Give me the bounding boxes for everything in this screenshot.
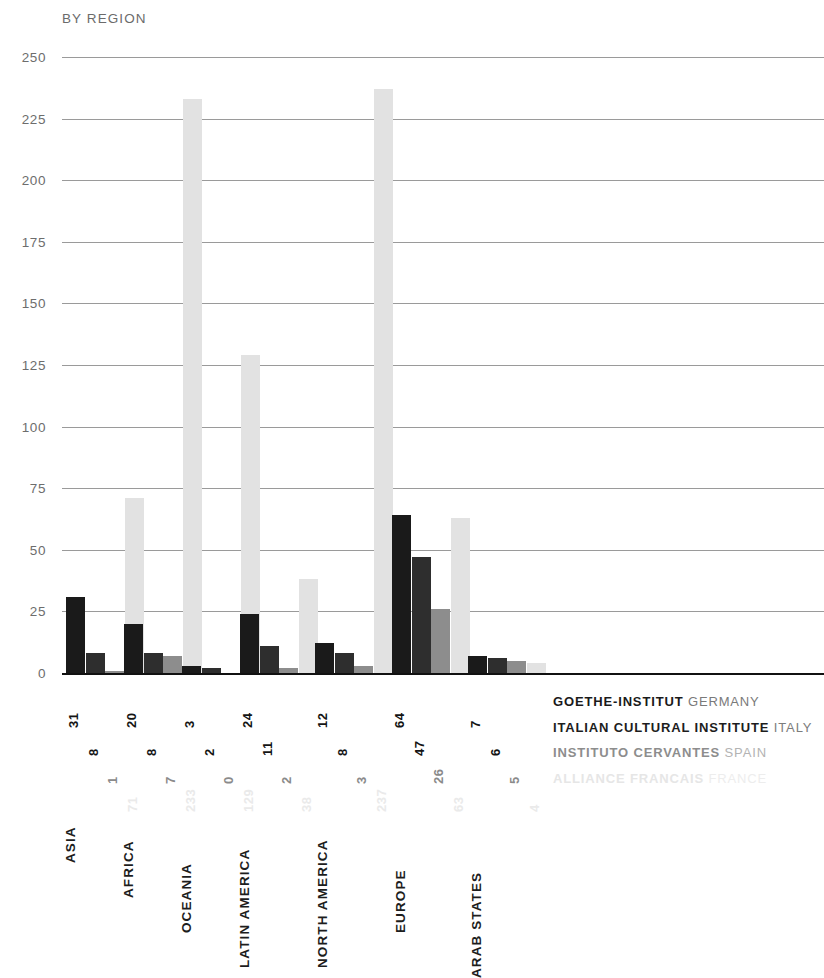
bar: [412, 557, 431, 673]
bar: [335, 653, 354, 673]
bar: [124, 624, 143, 673]
bar-value-label: 7: [468, 720, 483, 728]
bar: [163, 656, 182, 673]
y-axis-tick-125: 125: [0, 358, 46, 373]
bar: [182, 666, 201, 673]
bar-value-label: 2: [202, 748, 217, 756]
bar-value-label: 64: [392, 713, 407, 728]
bar: [431, 609, 450, 673]
category-label-asia: ASIA: [63, 826, 78, 863]
bar-value-label: 24: [240, 713, 255, 728]
bar: [183, 99, 202, 673]
legend-country: FRANCE: [704, 771, 767, 786]
y-axis-tick-200: 200: [0, 173, 46, 188]
bar-value-label: 5: [507, 776, 522, 784]
legend-country: ITALY: [769, 720, 812, 735]
bar-value-label: 47: [412, 741, 427, 756]
y-axis-tick-175: 175: [0, 234, 46, 249]
bars-layer: [62, 57, 824, 673]
bar-value-label: 11: [260, 741, 275, 756]
category-label-oceania: OCEANIA: [179, 863, 194, 933]
bar-value-label: 6: [488, 748, 503, 756]
bar-value-label: 12: [315, 713, 330, 728]
y-axis-tick-0: 0: [0, 666, 46, 681]
category-labels-layer: ASIAAFRICAOCEANIALATIN AMERICANORTH AMER…: [62, 808, 824, 978]
bar: [354, 666, 373, 673]
bar: [315, 643, 334, 673]
bar-value-label: 3: [182, 720, 197, 728]
bar: [66, 597, 85, 673]
bar-value-label: 26: [431, 769, 446, 784]
y-axis-tick-225: 225: [0, 111, 46, 126]
category-label-north-america: NORTH AMERICA: [315, 839, 330, 968]
legend-country: SPAIN: [720, 745, 767, 760]
bar-value-label: 3: [354, 776, 369, 784]
bar: [468, 656, 487, 673]
bar: [451, 518, 470, 673]
legend-item: GOETHE-INSTITUT GERMANY: [553, 689, 824, 715]
bar-value-label: 7: [163, 776, 178, 784]
legend-item: ITALIAN CULTURAL INSTITUTE ITALY: [553, 715, 824, 741]
category-label-arab-states: ARAB STATES: [469, 872, 484, 978]
bar: [488, 658, 507, 673]
bar: [240, 614, 259, 673]
y-axis-tick-75: 75: [0, 481, 46, 496]
bar: [507, 661, 526, 673]
bar: [392, 515, 411, 673]
legend-country: GERMANY: [683, 694, 759, 709]
legend: GOETHE-INSTITUT GERMANYITALIAN CULTURAL …: [553, 689, 824, 791]
legend-organization: ALLIANCE FRANCAIS: [553, 771, 704, 786]
bar-value-label: 2: [279, 776, 294, 784]
bar: [374, 89, 393, 673]
bar: [527, 663, 546, 673]
y-axis-tick-150: 150: [0, 296, 46, 311]
y-axis-tick-50: 50: [0, 542, 46, 557]
legend-organization: GOETHE-INSTITUT: [553, 694, 683, 709]
plot-area: 2502252001751501251007550250: [62, 57, 824, 673]
bar-value-label: 20: [124, 713, 139, 728]
bar: [86, 653, 105, 673]
chart-title: BY REGION: [62, 11, 147, 26]
bar: [260, 646, 279, 673]
category-label-latin-america: LATIN AMERICA: [237, 849, 252, 968]
bar-chart: BY REGION 2502252001751501251007550250 3…: [0, 0, 824, 978]
y-axis-tick-25: 25: [0, 604, 46, 619]
legend-organization: ITALIAN CULTURAL INSTITUTE: [553, 720, 769, 735]
bar-value-label: 31: [66, 713, 81, 728]
legend-organization: INSTITUTO CERVANTES: [553, 745, 720, 760]
bar-value-label: 0: [221, 776, 236, 784]
bar-value-label: 8: [335, 748, 350, 756]
y-axis-tick-250: 250: [0, 50, 46, 65]
legend-item: INSTITUTO CERVANTES SPAIN: [553, 740, 824, 766]
bar-value-label: 8: [86, 748, 101, 756]
category-label-europe: EUROPE: [393, 869, 408, 933]
legend-item: ALLIANCE FRANCAIS FRANCE: [553, 766, 824, 792]
bar-value-label: 8: [144, 748, 159, 756]
bar-value-label: 1: [105, 776, 120, 784]
category-label-africa: AFRICA: [121, 840, 136, 898]
y-axis-tick-100: 100: [0, 419, 46, 434]
bar: [144, 653, 163, 673]
